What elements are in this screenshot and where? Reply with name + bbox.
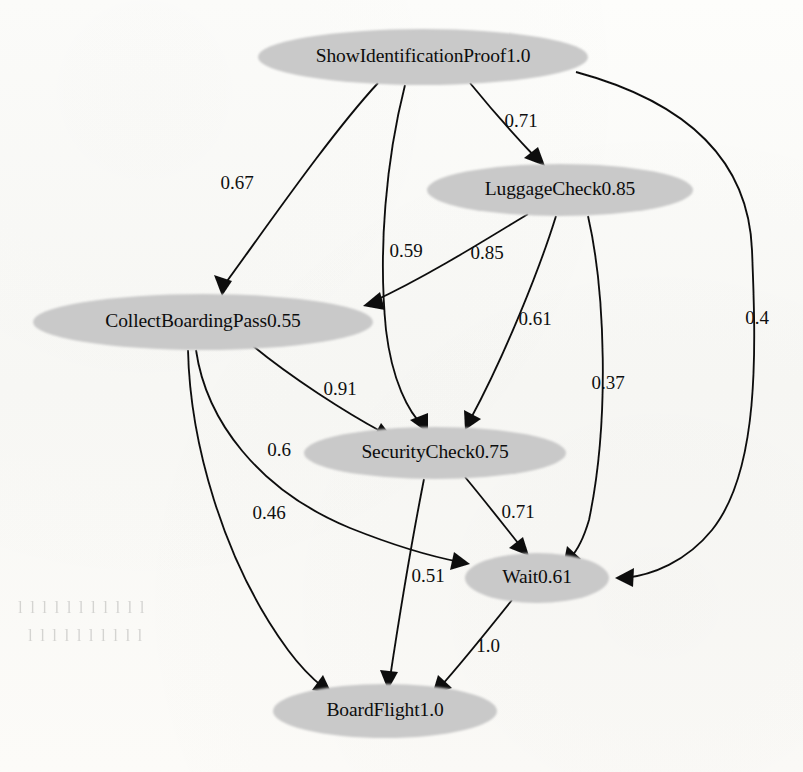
node-label-collectboardingpass: CollectBoardingPass0.55 [105, 310, 300, 331]
scanned-graph-page: l l l l l l l l l l l l l l l l l l l l … [0, 0, 803, 772]
edge-label-5: 0.61 [518, 308, 551, 329]
node-boardflight[interactable]: BoardFlight1.0 [273, 684, 497, 738]
node-label-securitycheck: SecurityCheck0.75 [361, 441, 508, 462]
node-securitycheck[interactable]: SecurityCheck0.75 [304, 427, 566, 479]
edge-label-12: 1.0 [476, 635, 500, 656]
edge-label-11: 0.51 [411, 565, 444, 586]
edge-label-2: 0.71 [504, 110, 537, 131]
edges-layer [188, 72, 754, 695]
process-graph: 0.67 0.59 0.71 0.4 0.85 0.61 0.37 0.91 0… [0, 0, 803, 772]
edge-label-3: 0.4 [745, 307, 769, 328]
edge-label-10: 0.71 [501, 501, 534, 522]
node-label-boardflight: BoardFlight1.0 [326, 699, 443, 720]
edge-label-4: 0.85 [470, 242, 503, 263]
node-collectboardingpass[interactable]: CollectBoardingPass0.55 [33, 294, 373, 350]
edge-label-9: 0.46 [252, 502, 285, 523]
node-label-luggagecheck: LuggageCheck0.85 [485, 178, 636, 199]
edge-label-7: 0.91 [323, 378, 356, 399]
node-label-wait: Wait0.61 [502, 566, 572, 587]
node-label-showidentificationproof: ShowIdentificationProof1.0 [316, 45, 531, 66]
edge-label-6: 0.37 [591, 372, 624, 393]
node-luggagecheck[interactable]: LuggageCheck0.85 [427, 164, 693, 216]
edge-wait-boardflight [432, 600, 512, 695]
edge-label-1: 0.59 [389, 240, 422, 261]
edge-label-8: 0.6 [267, 439, 291, 460]
edge-label-0: 0.67 [220, 172, 253, 193]
node-showidentificationproof[interactable]: ShowIdentificationProof1.0 [258, 29, 588, 85]
node-wait[interactable]: Wait0.61 [465, 553, 609, 603]
